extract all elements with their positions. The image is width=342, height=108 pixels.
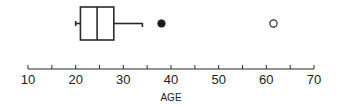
tick-label: 30	[116, 72, 130, 87]
tick-label: 40	[164, 72, 178, 87]
plot-area: 10203040506070 AGE	[0, 0, 342, 108]
x-axis: 10203040506070	[21, 65, 321, 87]
x-axis-title: AGE	[160, 92, 181, 103]
box-and-whiskers	[76, 7, 143, 40]
tick-label: 20	[68, 72, 82, 87]
tick-label: 50	[211, 72, 225, 87]
outlier-open	[270, 20, 277, 27]
outliers	[158, 20, 277, 28]
tick-label: 10	[21, 72, 35, 87]
box-plot-chart: 10203040506070 AGE	[0, 0, 342, 108]
tick-label: 60	[259, 72, 273, 87]
tick-label: 70	[307, 72, 321, 87]
outlier-filled	[158, 20, 166, 28]
